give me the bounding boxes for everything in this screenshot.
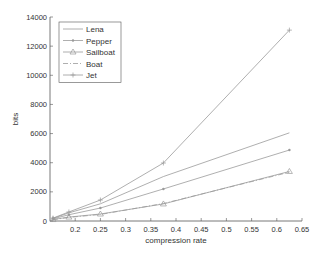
x-tick-label: 0.45 [194,225,209,234]
y-tick-label: 12000 [26,42,47,51]
x-tick-label: 0.65 [295,225,310,234]
y-tick-label: 10000 [26,71,47,80]
y-tick-label: 8000 [30,100,47,109]
x-tick-label: 0.2 [70,225,80,234]
legend-label: Pepper [86,37,112,46]
legend-label: Jet [86,71,97,80]
legend: LenaPepperSailboatBoatJet [59,22,121,83]
x-axis-label: compression rate [145,236,207,245]
y-tick-label: 6000 [30,129,47,138]
series-boat [53,172,289,220]
legend-label: Sailboat [86,48,116,57]
y-tick-label: 4000 [30,158,47,167]
series-pepper [52,149,291,220]
y-tick-label: 2000 [30,187,47,196]
series-lena [53,133,289,219]
series-sailboat [50,168,292,221]
y-tick-label: 14000 [26,13,47,22]
x-tick-label: 0.35 [143,225,158,234]
line-chart: 0.20.250.30.350.40.450.50.550.60.6502000… [0,0,326,254]
y-axis-label: bits [11,113,20,125]
x-tick-label: 0.25 [93,225,108,234]
legend-label: Boat [86,60,103,69]
x-tick-label: 0.3 [120,225,130,234]
x-tick-label: 0.4 [171,225,181,234]
x-tick-label: 0.55 [244,225,259,234]
x-tick-label: 0.6 [272,225,282,234]
x-tick-label: 0.5 [221,225,231,234]
legend-label: Lena [86,25,104,34]
y-tick-label: 0 [43,217,47,226]
